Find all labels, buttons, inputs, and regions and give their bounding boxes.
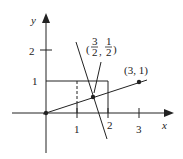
diagram: y x 1 2 3 1 2 (3, 1) ( 3 2 , 1 2 ) bbox=[0, 0, 183, 159]
point-3-1 bbox=[137, 80, 141, 84]
label-leader-line bbox=[94, 62, 101, 93]
y-tick-label-1: 1 bbox=[32, 75, 38, 87]
x-tick-label-3: 3 bbox=[136, 123, 142, 135]
close-paren: ) bbox=[113, 43, 117, 56]
x-axis-label: x bbox=[161, 119, 167, 131]
intersection-point bbox=[91, 95, 95, 99]
point-3-1-label: (3, 1) bbox=[124, 64, 148, 77]
comma: , bbox=[99, 45, 102, 57]
open-paren: ( bbox=[86, 43, 90, 56]
origin-point bbox=[44, 111, 48, 115]
x-tick-label-1: 1 bbox=[74, 123, 80, 135]
y-axis-arrow-icon bbox=[42, 13, 50, 23]
coordinate-plane: y x 1 2 3 1 2 (3, 1) ( 3 2 , 1 2 ) bbox=[0, 0, 183, 159]
x-axis-arrow-icon bbox=[164, 109, 174, 117]
intersection-label: ( 3 2 , 1 2 ) bbox=[86, 35, 117, 58]
y-tick-label-2: 2 bbox=[29, 45, 35, 57]
x-tick-label-2: 2 bbox=[107, 119, 113, 131]
y-axis-label: y bbox=[30, 14, 36, 26]
frac2-den: 2 bbox=[106, 46, 112, 58]
frac1-den: 2 bbox=[92, 46, 98, 58]
